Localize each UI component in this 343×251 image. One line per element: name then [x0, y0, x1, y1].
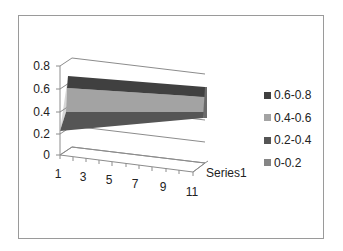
legend-swatch: [264, 137, 271, 144]
legend-item: 0.6-0.8: [264, 84, 311, 107]
legend-item: 0-0.2: [264, 152, 311, 175]
legend-label: 0.4-0.6: [274, 111, 311, 125]
surface: [60, 76, 207, 131]
svg-text:7: 7: [132, 177, 139, 191]
legend-swatch: [264, 159, 271, 166]
y-axis: [56, 66, 60, 155]
y-tick-labels: 0 0.2 0.4 0.6 0.8: [33, 59, 50, 162]
legend: 0.6-0.8 0.4-0.6 0.2-0.4 0-0.2: [264, 84, 311, 174]
x-tick-labels: 1 3 5 7 9 11: [55, 167, 199, 199]
svg-text:0.8: 0.8: [33, 59, 50, 73]
legend-label: 0.2-0.4: [274, 133, 311, 147]
svg-text:5: 5: [106, 173, 113, 187]
svg-text:9: 9: [160, 180, 167, 194]
svg-text:11: 11: [186, 185, 199, 199]
legend-swatch: [264, 114, 271, 121]
svg-text:0: 0: [43, 148, 50, 162]
svg-text:0.6: 0.6: [33, 82, 50, 96]
band-0.2-0.4: [60, 112, 205, 131]
svg-text:3: 3: [80, 170, 87, 184]
depth-axis-label: Series1: [206, 166, 247, 180]
svg-text:0.2: 0.2: [33, 127, 50, 141]
svg-text:1: 1: [55, 167, 62, 181]
legend-item: 0.4-0.6: [264, 107, 311, 130]
svg-text:0.4: 0.4: [33, 105, 50, 119]
floor: [60, 147, 205, 172]
legend-label: 0.6-0.8: [274, 88, 311, 102]
legend-item: 0.2-0.4: [264, 129, 311, 152]
legend-label: 0-0.2: [274, 156, 301, 170]
legend-swatch: [264, 92, 271, 99]
